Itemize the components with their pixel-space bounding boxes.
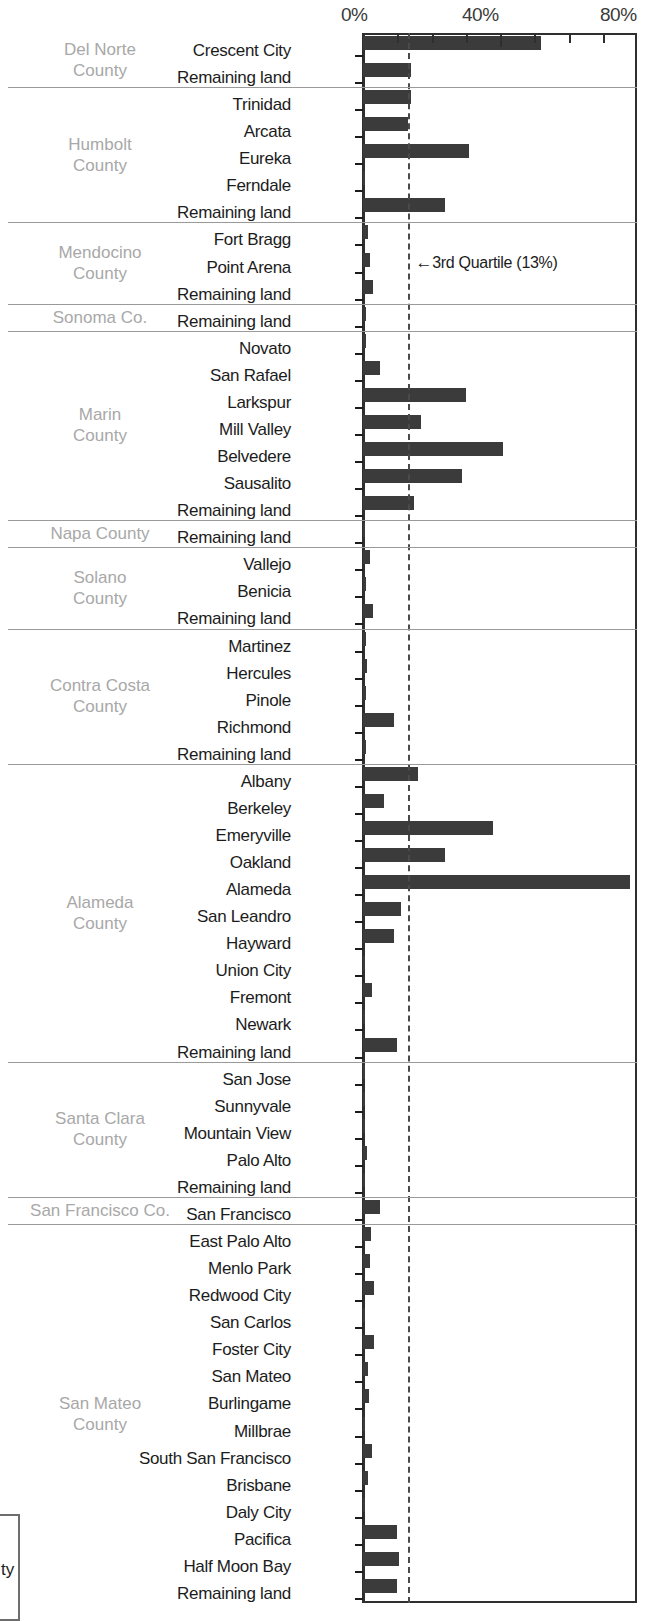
bar-row-tick: [355, 786, 363, 788]
bar-row: Half Moon Bay: [0, 1549, 658, 1576]
bar-row-tick: [355, 867, 363, 869]
bar: [363, 875, 630, 889]
county-separator: [8, 222, 637, 223]
third-quartile-annotation: ←3rd Quartile (13%): [416, 253, 558, 273]
bar-row: Brisbane: [0, 1468, 658, 1495]
bar-row: Alameda: [0, 872, 658, 899]
bar: [363, 1362, 368, 1376]
bar-row-label: Hercules: [6, 664, 296, 684]
bar-row-tick: [355, 488, 363, 490]
third-quartile-label: 3rd Quartile (13%): [432, 254, 557, 271]
bar-row-tick: [355, 1571, 363, 1573]
bar: [363, 1444, 372, 1458]
bar-row: Remaining land: [0, 304, 658, 331]
bar-row-tick: [355, 1354, 363, 1356]
bar: [363, 1010, 365, 1024]
bar-row: Daly City: [0, 1495, 658, 1522]
bar: [363, 90, 411, 104]
x-axis-tick-40: [500, 33, 502, 47]
bar-row-tick: [355, 1084, 363, 1086]
bar-row-label: Fremont: [6, 988, 296, 1008]
bar-row: Remaining land: [0, 1170, 658, 1197]
bar: [363, 1092, 365, 1106]
bar: [363, 1525, 397, 1539]
bar-row-label: Remaining land: [6, 528, 296, 548]
bar-row: Pacifica: [0, 1522, 658, 1549]
bar-row-label: Belvedere: [6, 447, 296, 467]
bar-row-tick: [355, 1381, 363, 1383]
bar-row-label: Oakland: [6, 853, 296, 873]
county-separator: [8, 304, 637, 305]
bar-row-label: Pinole: [6, 691, 296, 711]
bar-row-tick: [355, 651, 363, 653]
bar-row-tick: [355, 136, 363, 138]
bar-row-label: Mountain View: [6, 1124, 296, 1144]
county-separator: [8, 1197, 637, 1198]
bar-row-tick: [355, 1517, 363, 1519]
bar: [363, 198, 445, 212]
bar-row: Fremont: [0, 980, 658, 1007]
bar-row-tick: [355, 1598, 363, 1600]
bar-row-tick: [355, 569, 363, 571]
bar-row-tick: [355, 190, 363, 192]
bar-row-tick: [355, 1029, 363, 1031]
bar-row-label: San Francisco: [6, 1205, 296, 1225]
bar-row-tick: [355, 678, 363, 680]
bar-row-tick: [355, 1219, 363, 1221]
bar-row: San Leandro: [0, 899, 658, 926]
bar-row-tick: [355, 1300, 363, 1302]
bar-row-label: Novato: [6, 339, 296, 359]
bar-row-label: Vallejo: [6, 555, 296, 575]
bar-row-tick: [355, 1246, 363, 1248]
bar-row: East Palo Alto: [0, 1224, 658, 1251]
bar-row-label: Alameda: [6, 880, 296, 900]
bar-row-tick: [355, 1490, 363, 1492]
bar-row-tick: [355, 434, 363, 436]
county-separator: [8, 1224, 637, 1225]
bar-row: Emeryville: [0, 818, 658, 845]
bar-row-label: Benicia: [6, 582, 296, 602]
bar-row: Remaining land: [0, 60, 658, 87]
bar-row: Sunnyvale: [0, 1089, 658, 1116]
bar: [363, 956, 365, 970]
bar: [363, 1038, 397, 1052]
bar-row-label: Fort Bragg: [6, 230, 296, 250]
bar-row: Millbrae: [0, 1414, 658, 1441]
bar-row-tick: [355, 1165, 363, 1167]
bar: [363, 388, 466, 402]
bar: [363, 1552, 399, 1566]
bar-row-tick: [355, 407, 363, 409]
bar-row-label: Eureka: [6, 149, 296, 169]
bar-row-tick: [355, 1192, 363, 1194]
x-axis-tick-label-0: 0%: [341, 4, 367, 26]
bar-row-label: Richmond: [6, 718, 296, 738]
bar-row-label: Palo Alto: [6, 1151, 296, 1171]
bar-row-tick: [355, 217, 363, 219]
bar-row-tick: [355, 353, 363, 355]
bar: [363, 713, 394, 727]
bar-row-tick: [355, 163, 363, 165]
bar-rows-layer: Crescent CityRemaining landTrinidadArcat…: [0, 33, 658, 1603]
x-axis-tick-60: [569, 33, 571, 43]
bar: [363, 415, 421, 429]
bar-row: Hayward: [0, 926, 658, 953]
bar-row-tick: [355, 1138, 363, 1140]
bar-row-tick: [355, 461, 363, 463]
bar: [363, 686, 366, 700]
bar-row-label: Pacifica: [6, 1530, 296, 1550]
bar-row: Albany: [0, 764, 658, 791]
bar-row-label: Half Moon Bay: [6, 1557, 296, 1577]
bar-row: Mill Valley: [0, 412, 658, 439]
x-axis-tick-50: [534, 33, 536, 43]
bar: [363, 1065, 365, 1079]
bar: [363, 659, 367, 673]
bar-row: Remaining land: [0, 195, 658, 222]
bar-row-label: Remaining land: [6, 203, 296, 223]
county-separator: [8, 87, 637, 88]
bar-row-label: Menlo Park: [6, 1259, 296, 1279]
bar-row-label: Brisbane: [6, 1476, 296, 1496]
bar-row-tick: [355, 732, 363, 734]
bar: [363, 1227, 371, 1241]
bar-row-label: Remaining land: [6, 501, 296, 521]
bar-row-label: Remaining land: [6, 312, 296, 332]
